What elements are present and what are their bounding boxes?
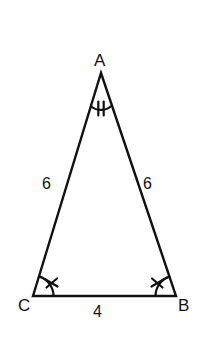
side-length-label-left: 6 — [42, 176, 51, 192]
vertex-label-a: A — [94, 52, 105, 69]
side-length-label-right: 6 — [143, 176, 152, 192]
vertex-label-c: C — [18, 297, 30, 314]
apex-angle-arc — [91, 107, 110, 110]
side-length-label-base: 4 — [93, 304, 102, 320]
vertex-label-b: B — [178, 297, 189, 314]
triangle-diagram: A B C 6 6 4 — [0, 0, 203, 356]
